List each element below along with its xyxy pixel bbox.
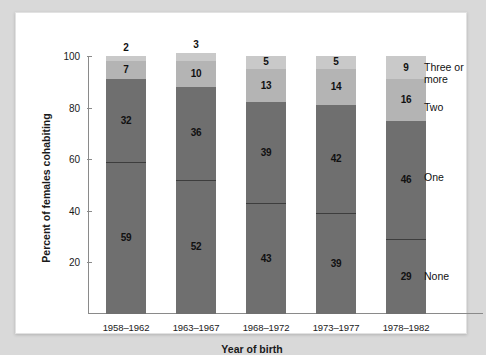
bar-segment-three-or-more[interactable]: 5 (316, 56, 356, 69)
bar-segment-two[interactable]: 14 (316, 69, 356, 105)
bar-value-label: 43 (261, 254, 272, 264)
bar-group[interactable]: 2732591958–1962 (106, 56, 146, 314)
bar-value-label: 29 (401, 272, 412, 282)
bar-stack: 5144239 (316, 56, 356, 314)
plot-area: 20406080100 2732591958–196231036521963–1… (88, 56, 418, 314)
series-label-one: One (424, 171, 444, 183)
bar-group[interactable]: 31036521963–1967 (176, 53, 216, 314)
bar-segment-two[interactable]: 7 (106, 61, 146, 79)
bar-value-label: 5 (333, 57, 338, 67)
bar-value-label: 3 (193, 40, 198, 50)
bar-segment-none[interactable]: 43 (246, 203, 286, 314)
bar-stack: 9164629 (386, 56, 426, 314)
y-axis-tick (87, 159, 92, 160)
bar-segment-one[interactable]: 39 (246, 102, 286, 203)
bar-segment-one[interactable]: 42 (316, 105, 356, 213)
y-axis-tick (87, 211, 92, 212)
bar-value-label: 36 (191, 128, 202, 138)
bar-segment-one[interactable]: 32 (106, 79, 146, 162)
bar-segment-one[interactable]: 36 (176, 87, 216, 180)
bar-value-label: 14 (331, 82, 342, 92)
x-axis-title: Year of birth (221, 343, 282, 355)
bar-segment-none[interactable]: 29 (386, 239, 426, 314)
x-axis-category-label: 1963–1967 (173, 322, 220, 333)
bar-segment-none[interactable]: 52 (176, 180, 216, 314)
bar-value-label: 5 (263, 57, 268, 67)
series-label-three-or-more: Three or more (424, 61, 464, 85)
y-axis-tick (87, 56, 92, 57)
bar-value-label: 39 (261, 148, 272, 158)
x-axis-category-label: 1958–1962 (103, 322, 150, 333)
bar-segment-two[interactable]: 13 (246, 69, 286, 103)
x-axis-category-label: 1968–1972 (243, 322, 290, 333)
bar-stack: 273259 (106, 56, 146, 314)
bar-segment-three-or-more[interactable]: 9 (386, 56, 426, 79)
bar-value-label: 32 (121, 116, 132, 126)
bar-stack: 3103652 (176, 53, 216, 314)
bar-value-label: 2 (123, 43, 128, 53)
y-axis-tick-label: 20 (69, 257, 80, 268)
figure-card: Percent of females cohabiting Year of bi… (15, 12, 467, 334)
series-label-none: None (424, 270, 449, 282)
series-label-two: Two (424, 101, 443, 113)
bar-segment-three-or-more[interactable]: 5 (246, 56, 286, 69)
bar-segment-two[interactable]: 10 (176, 61, 216, 87)
bar-segment-two[interactable]: 16 (386, 79, 426, 120)
bar-segment-three-or-more[interactable]: 3 (176, 53, 216, 61)
bar-group[interactable]: 91646291978–1982 (386, 56, 426, 314)
bar-group[interactable]: 51442391973–1977 (316, 56, 356, 314)
y-axis-title: Percent of females cohabiting (40, 113, 52, 262)
y-axis-tick-label: 100 (64, 51, 80, 62)
bar-group[interactable]: 51339431968–1972 (246, 56, 286, 314)
bar-value-label: 10 (191, 69, 202, 79)
bar-value-label: 13 (261, 81, 272, 91)
bar-value-label: 7 (123, 65, 128, 75)
bar-value-label: 42 (331, 154, 342, 164)
x-axis-category-label: 1973–1977 (313, 322, 360, 333)
y-axis-tick (87, 262, 92, 263)
bar-value-label: 16 (401, 95, 412, 105)
bar-segment-one[interactable]: 46 (386, 121, 426, 240)
y-axis-tick-label: 40 (69, 205, 80, 216)
bar-value-label: 9 (403, 63, 408, 73)
y-axis-tick-label: 80 (69, 102, 80, 113)
y-axis-tick (87, 108, 92, 109)
bar-value-label: 39 (331, 259, 342, 269)
y-axis-tick-label: 60 (69, 154, 80, 165)
bar-value-label: 59 (121, 233, 132, 243)
bar-value-label: 52 (191, 242, 202, 252)
x-axis-category-label: 1978–1982 (383, 322, 430, 333)
bar-segment-none[interactable]: 39 (316, 213, 356, 314)
bar-segment-none[interactable]: 59 (106, 162, 146, 314)
bar-value-label: 46 (401, 175, 412, 185)
y-axis-line (88, 56, 89, 314)
bar-stack: 5133943 (246, 56, 286, 314)
